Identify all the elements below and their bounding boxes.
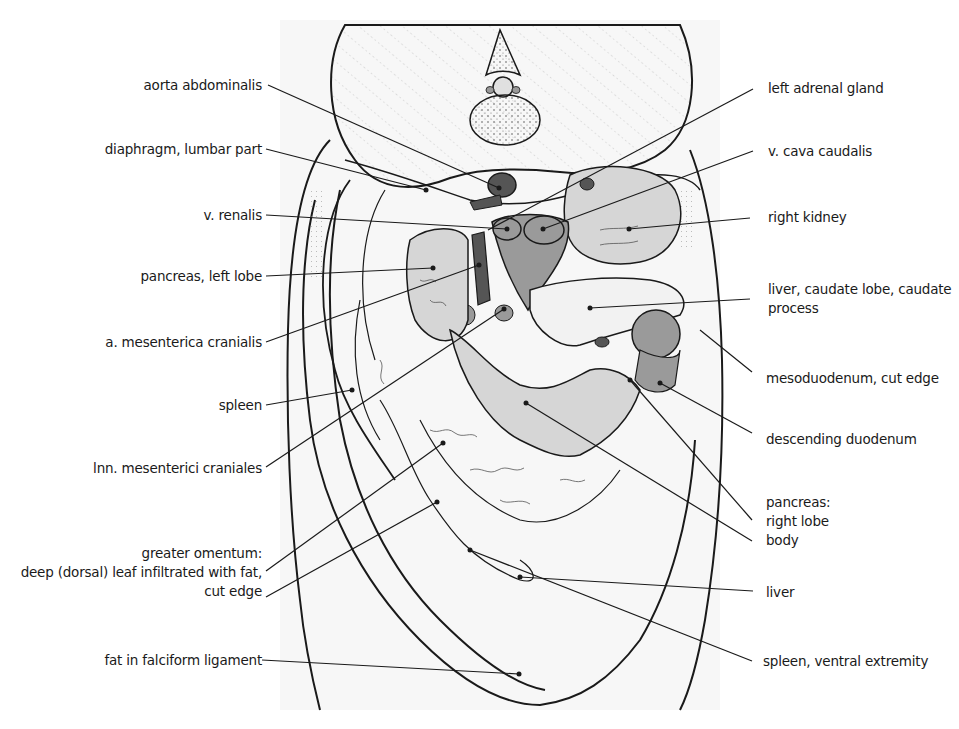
- label-mesoduodenum-cut-edge: mesoduodenum, cut edge: [766, 369, 939, 388]
- abdomen-illustration: [0, 0, 959, 729]
- label-left-adrenal-gland: left adrenal gland: [768, 79, 884, 98]
- label-v-renalis: v. renalis: [204, 206, 262, 225]
- label-v-cava-caudalis: v. cava caudalis: [768, 142, 872, 161]
- label-pancreas-left-lobe: pancreas, left lobe: [140, 267, 262, 286]
- label-fat-in-falciform-ligament: fat in falciform ligament: [104, 651, 262, 670]
- duodenum-shape: [632, 310, 680, 358]
- label-spleen-ventral-extremity: spleen, ventral extremity: [763, 652, 928, 671]
- transverse-section: [331, 25, 692, 187]
- label-liver-caudate-lobe: liver, caudate lobe, caudate process: [768, 280, 951, 318]
- label-diaphragm-lumbar-part: diaphragm, lumbar part: [105, 140, 262, 159]
- anatomical-figure: aorta abdominalis diaphragm, lumbar part…: [0, 0, 959, 729]
- label-liver: liver: [766, 583, 794, 602]
- label-descending-duodenum: descending duodenum: [766, 430, 917, 449]
- label-pancreas-right-lobe-body: pancreas: right lobe body: [766, 493, 830, 550]
- label-spleen: spleen: [219, 396, 262, 415]
- label-greater-omentum: greater omentum: deep (dorsal) leaf infi…: [21, 544, 262, 601]
- label-lnn-mesenterici-craniales: lnn. mesenterici craniales: [93, 459, 262, 478]
- label-aorta-abdominalis: aorta abdominalis: [144, 76, 262, 95]
- label-a-mesenterica-cranialis: a. mesenterica cranialis: [105, 333, 262, 352]
- label-right-kidney: right kidney: [768, 208, 847, 227]
